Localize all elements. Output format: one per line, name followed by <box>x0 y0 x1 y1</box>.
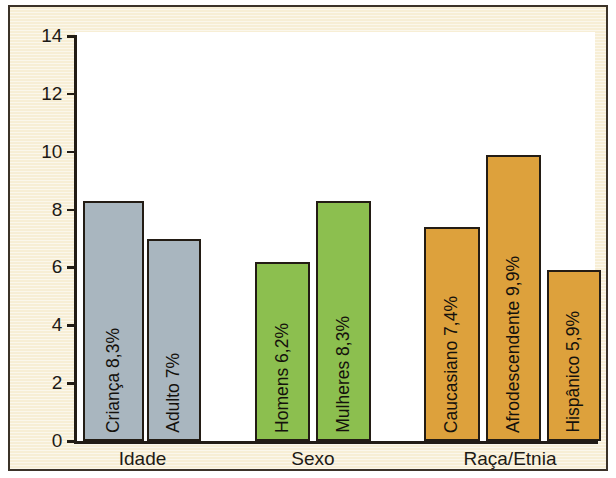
bar-label: Adulto 7% <box>165 353 183 433</box>
chart-card: 02468101214 Criança 8,3%Adulto 7%Homens … <box>8 5 608 471</box>
bar-afrodescendente: Afrodescendente 9,9% <box>486 155 541 441</box>
bar-label: Homens 6,2% <box>274 323 292 433</box>
bar-label-wrap: Criança 8,3% <box>85 328 142 433</box>
bar-crian-a: Criança 8,3% <box>83 201 144 441</box>
group-label-ra-a-etnia: Raça/Etnia <box>415 448 605 470</box>
bar-mulheres: Mulheres 8,3% <box>316 201 371 441</box>
bar-label-wrap: Hispânico 5,9% <box>549 311 599 433</box>
bar-hisp-nico: Hispânico 5,9% <box>547 270 601 441</box>
group-label-idade: Idade <box>75 448 210 470</box>
bar-label-wrap: Adulto 7% <box>149 353 199 433</box>
bar-label-wrap: Homens 6,2% <box>257 323 308 433</box>
bar-label: Afrodescendente 9,9% <box>505 256 523 433</box>
chart-figure: 02468101214 Criança 8,3%Adulto 7%Homens … <box>0 0 616 478</box>
bar-adulto: Adulto 7% <box>147 239 201 442</box>
group-label-sexo: Sexo <box>248 448 378 470</box>
bars-layer: Criança 8,3%Adulto 7%Homens 6,2%Mulheres… <box>10 7 616 444</box>
bar-label-wrap: Afrodescendente 9,9% <box>488 256 539 433</box>
bar-label-wrap: Mulheres 8,3% <box>318 316 369 433</box>
bar-label-wrap: Caucasiano 7,4% <box>426 296 478 433</box>
bar-label: Criança 8,3% <box>105 328 123 433</box>
bar-homens: Homens 6,2% <box>255 262 310 441</box>
bar-label: Caucasiano 7,4% <box>443 296 461 433</box>
bar-caucasiano: Caucasiano 7,4% <box>424 227 480 441</box>
bar-label: Hispânico 5,9% <box>565 311 583 433</box>
bar-label: Mulheres 8,3% <box>335 316 353 433</box>
